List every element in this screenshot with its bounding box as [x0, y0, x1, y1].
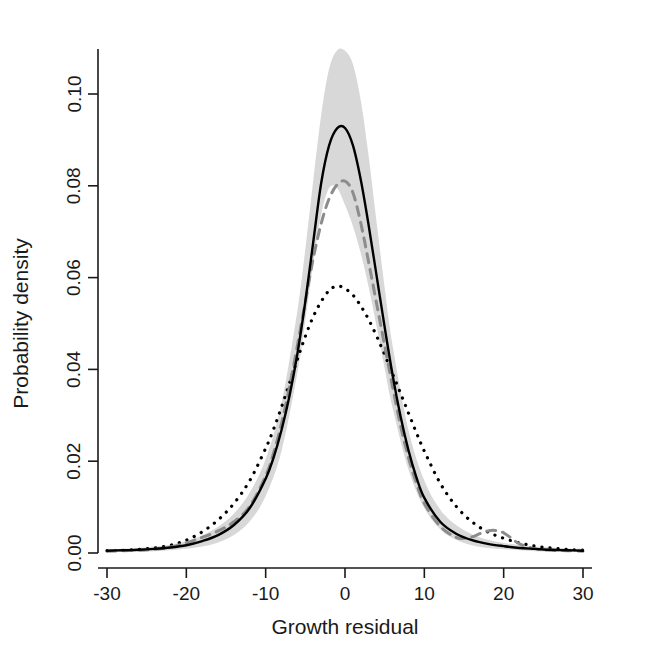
plot-area: [107, 49, 583, 553]
x-tick-label: 0: [340, 583, 351, 604]
x-tick-label: -20: [173, 583, 200, 604]
x-tick-label: -30: [93, 583, 120, 604]
x-tick-label: 30: [572, 583, 593, 604]
y-axis-ticks: 0.000.020.040.060.080.10: [64, 76, 99, 572]
y-tick-label: 0.06: [64, 259, 85, 296]
confidence-band: [107, 49, 583, 553]
x-tick-label: 10: [414, 583, 435, 604]
y-tick-label: 0.02: [64, 443, 85, 480]
x-tick-label: -10: [252, 583, 279, 604]
x-axis-ticks: -30-20-100102030: [93, 568, 593, 604]
plot-canvas: -30-20-100102030 0.000.020.040.060.080.1…: [0, 0, 650, 651]
x-axis-title: Growth residual: [271, 615, 418, 638]
y-tick-label: 0.04: [64, 350, 85, 387]
x-tick-label: 20: [493, 583, 514, 604]
y-tick-label: 0.10: [64, 76, 85, 113]
density-plot-figure: -30-20-100102030 0.000.020.040.060.080.1…: [0, 0, 650, 651]
reference-density-dotted-line: [107, 286, 583, 551]
y-axis-title: Probability density: [9, 238, 32, 409]
y-tick-label: 0.00: [64, 535, 85, 572]
y-tick-label: 0.08: [64, 167, 85, 204]
empirical-density-dashed-line: [107, 181, 583, 551]
